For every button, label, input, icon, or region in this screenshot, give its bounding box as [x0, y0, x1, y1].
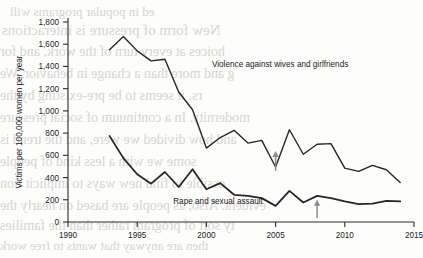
- y-tick-label: 1,400: [39, 62, 60, 71]
- y-tick-label: 1,600: [39, 40, 60, 49]
- y-tick-label: 800: [45, 129, 59, 138]
- y-tick-label: 1,000: [39, 107, 60, 116]
- y-tick-label: 400: [45, 174, 59, 183]
- y-tick-label: 200: [45, 196, 59, 205]
- line-chart: 02004006008001,0001,2001,4001,6001,80019…: [0, 0, 423, 258]
- arrow-2008: [314, 200, 320, 218]
- y-tick-label: 1,200: [39, 85, 60, 94]
- y-tick-label: 1,800: [39, 18, 60, 27]
- x-tick-label: 1990: [59, 231, 78, 240]
- x-tick-label: 2015: [405, 231, 423, 240]
- x-tick-label: 2000: [197, 231, 216, 240]
- y-axis-title: Victims per 100,000 women per year: [15, 55, 24, 188]
- x-tick-label: 1995: [128, 231, 147, 240]
- figure: ed in popular programs willNew form of p…: [0, 0, 423, 258]
- series-label-1: Violence against wives and girlfriends: [212, 60, 348, 69]
- x-tick-label: 2010: [336, 231, 355, 240]
- x-tick-label: 2005: [266, 231, 285, 240]
- y-tick-label: 0: [54, 218, 59, 227]
- y-tick-label: 600: [45, 151, 59, 160]
- series-line-1: [110, 36, 401, 182]
- series-label-2: Rape and sexual assault: [173, 197, 263, 206]
